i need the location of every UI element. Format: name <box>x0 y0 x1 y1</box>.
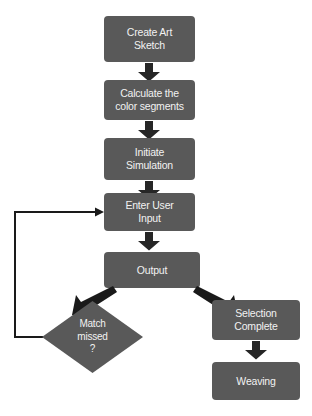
node-label: Weaving <box>233 375 278 388</box>
node-selection-complete[interactable]: Selection Complete <box>212 300 300 340</box>
arrow-down-icon-4 <box>137 232 161 251</box>
node-create-art-sketch[interactable]: Create Art Sketch <box>104 16 195 62</box>
node-label: Enter User Input <box>122 199 176 225</box>
node-label: Calculate the color segments <box>112 87 186 113</box>
node-initiate-simulation[interactable]: Initiate Simulation <box>104 138 195 180</box>
node-calculate-color-segments[interactable]: Calculate the color segments <box>104 80 195 120</box>
arrow-down-icon-5 <box>244 341 268 360</box>
node-label: Output <box>134 264 170 277</box>
node-output[interactable]: Output <box>104 252 200 288</box>
node-enter-user-input[interactable]: Enter User Input <box>104 193 195 231</box>
flowchart-canvas: Create Art Sketch Calculate the color se… <box>0 0 312 416</box>
node-label: Match missed ? <box>77 318 107 356</box>
node-label: Selection Complete <box>231 307 280 333</box>
node-match-missed[interactable]: Match missed ? <box>42 301 143 373</box>
node-label: Initiate Simulation <box>123 146 176 172</box>
node-label: Create Art Sketch <box>124 26 175 52</box>
node-weaving[interactable]: Weaving <box>212 362 300 400</box>
